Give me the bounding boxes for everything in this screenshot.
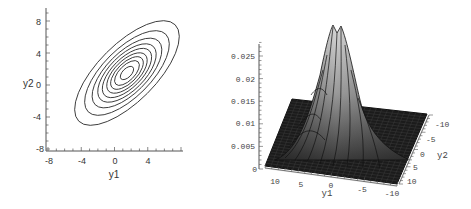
contour-line — [81, 27, 173, 119]
contour-plot-svg: 8 4 0 -4 -8 -8 -4 0 4 y1 y2 — [0, 0, 210, 209]
surface-plot: 0.025 0.02 0.015 0.01 0.005 0 10 5 0 -5 … — [215, 0, 471, 209]
y1-tick-label: -10 — [385, 189, 400, 198]
y1-tick-label: 10 — [270, 177, 280, 186]
x-tick-label: -4 — [78, 156, 86, 166]
y-tick-label: -4 — [33, 112, 41, 122]
x-axis-label: y1 — [109, 169, 120, 180]
y2-tick-label: 10 — [407, 177, 417, 186]
z-tick-label: 0 — [252, 165, 257, 174]
x-axis-ticks — [48, 147, 181, 151]
z-tick-label: 0.01 — [236, 119, 255, 128]
contour-lines — [58, 4, 195, 141]
contour-line — [105, 51, 149, 95]
z-tick-label: 0.025 — [231, 52, 255, 61]
z-tick-label: 0.015 — [231, 97, 255, 106]
y2-tick-label: -10 — [435, 120, 450, 129]
y1-tick-label: 5 — [299, 180, 304, 189]
y-axis-label: y2 — [23, 78, 34, 89]
y1-tick-label: -5 — [357, 185, 367, 194]
y1-axis-label: y1 — [322, 189, 333, 199]
z-axis-ticks — [259, 42, 263, 169]
x-tick-label: -8 — [45, 156, 53, 166]
y-tick-label: 8 — [36, 17, 41, 27]
contour-plot: 8 4 0 -4 -8 -8 -4 0 4 y1 y2 — [0, 0, 210, 209]
x-tick-label: 0 — [112, 156, 117, 166]
contour-line — [88, 34, 166, 112]
y-tick-label: -8 — [36, 144, 44, 154]
y2-axis-label: y2 — [437, 151, 448, 161]
y-tick-label: 4 — [36, 49, 41, 59]
y2-tick-label: -5 — [426, 135, 436, 144]
y-tick-label: 0 — [36, 80, 41, 90]
z-tick-label: 0.005 — [231, 142, 255, 151]
contour-line — [71, 17, 183, 129]
y2-tick-label: 5 — [413, 163, 418, 172]
x-tick-label: 4 — [145, 156, 150, 166]
y2-tick-label: 0 — [420, 150, 425, 159]
surface-plot-svg: 0.025 0.02 0.015 0.01 0.005 0 10 5 0 -5 … — [215, 0, 471, 209]
y-axis-ticks — [46, 13, 50, 149]
contour-line — [110, 56, 143, 89]
z-tick-label: 0.02 — [236, 75, 255, 84]
contour-line — [118, 64, 136, 82]
contour-line — [58, 4, 195, 141]
